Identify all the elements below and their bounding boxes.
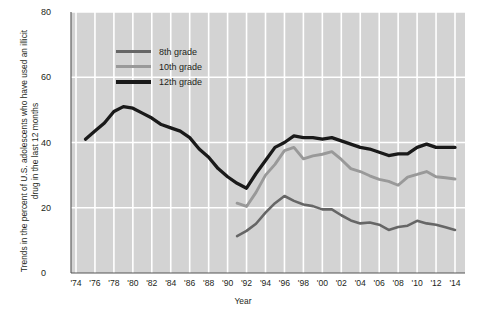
legend-label-8th-grade: 8th grade [159,47,197,57]
legend-swatch-10th-grade [116,65,151,68]
legend-swatch-12th-grade [116,80,151,84]
x-tick-label: '90 [222,278,233,288]
x-tick-label: '88 [203,278,214,288]
x-tick-label: '02 [336,278,347,288]
legend-item-10th-grade: 10th grade [116,59,236,74]
x-tick-label: '08 [393,278,404,288]
x-tick-label: '94 [260,278,271,288]
x-tick-label: '00 [317,278,328,288]
legend-label-12th-grade: 12th grade [159,77,202,87]
x-axis-ticks: '74'76'78'80'82'84'86'88'90'92'94'96'98'… [0,0,486,320]
x-tick-label: '84 [165,278,176,288]
legend-item-12th-grade: 12th grade [116,74,236,89]
x-tick-label: '74 [70,278,81,288]
x-tick-label: '12 [430,278,441,288]
x-tick-label: '82 [146,278,157,288]
legend-label-10th-grade: 10th grade [159,62,202,72]
x-tick-label: '10 [411,278,422,288]
legend-swatch-8th-grade [116,50,151,53]
x-tick-label: '98 [298,278,309,288]
x-tick-label: '14 [449,278,460,288]
chart-container: Trends in the percent of U.S. adolescent… [0,0,486,320]
x-axis-title: Year [0,296,486,306]
x-tick-label: '92 [241,278,252,288]
legend: 8th grade 10th grade 12th grade [116,44,236,89]
x-tick-label: '06 [374,278,385,288]
legend-item-8th-grade: 8th grade [116,44,236,59]
x-tick-label: '86 [184,278,195,288]
x-tick-label: '04 [355,278,366,288]
x-tick-label: '78 [108,278,119,288]
x-tick-label: '80 [127,278,138,288]
x-tick-label: '76 [89,278,100,288]
x-tick-label: '96 [279,278,290,288]
